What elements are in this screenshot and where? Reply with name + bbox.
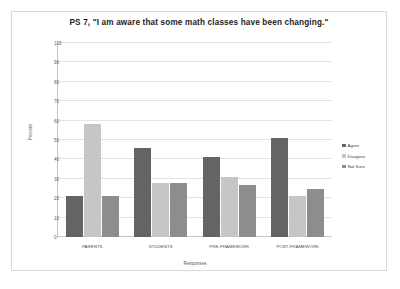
- bar: [134, 148, 151, 237]
- legend-label: Agree: [348, 143, 360, 148]
- legend-swatch-icon: [342, 154, 346, 158]
- bar: [271, 138, 288, 237]
- bar-group: STUDENTS: [127, 43, 196, 237]
- x-axis-tick-label: POST-FRAMEWORK: [264, 244, 333, 249]
- bar: [66, 196, 83, 237]
- x-axis-title: Responses: [58, 261, 332, 266]
- bar: [170, 183, 187, 237]
- bar: [289, 196, 306, 237]
- x-axis-tick-label: PARENTS: [58, 244, 127, 249]
- bar: [152, 183, 169, 237]
- legend-item[interactable]: Not Sure: [342, 164, 365, 169]
- bar: [203, 157, 220, 237]
- legend-item[interactable]: Agree: [342, 143, 365, 148]
- plot-area: 0102030405060708090100 PARENTSSTUDENTSPR…: [58, 43, 332, 237]
- chart-legend: AgreeDisagreeNot Sure: [342, 143, 365, 169]
- bar-group: PARENTS: [58, 43, 127, 237]
- bar-group: POST-FRAMEWORK: [264, 43, 333, 237]
- bar: [307, 189, 324, 238]
- x-axis-tick-label: PRE-FRAMEWORK: [195, 244, 264, 249]
- bar: [84, 124, 101, 237]
- x-axis-tick-label: STUDENTS: [127, 244, 196, 249]
- legend-item[interactable]: Disagree: [342, 154, 365, 159]
- bar: [221, 177, 238, 237]
- legend-swatch-icon: [342, 165, 346, 169]
- legend-label: Not Sure: [348, 164, 365, 169]
- bar: [102, 196, 119, 237]
- chart-title: PS 7, "I am aware that some math classes…: [12, 18, 386, 27]
- bar: [239, 185, 256, 237]
- legend-swatch-icon: [342, 144, 346, 148]
- legend-label: Disagree: [348, 154, 366, 159]
- chart-container: PS 7, "I am aware that some math classes…: [11, 11, 387, 271]
- y-axis-title: Percent: [28, 124, 33, 140]
- bar-group: PRE-FRAMEWORK: [195, 43, 264, 237]
